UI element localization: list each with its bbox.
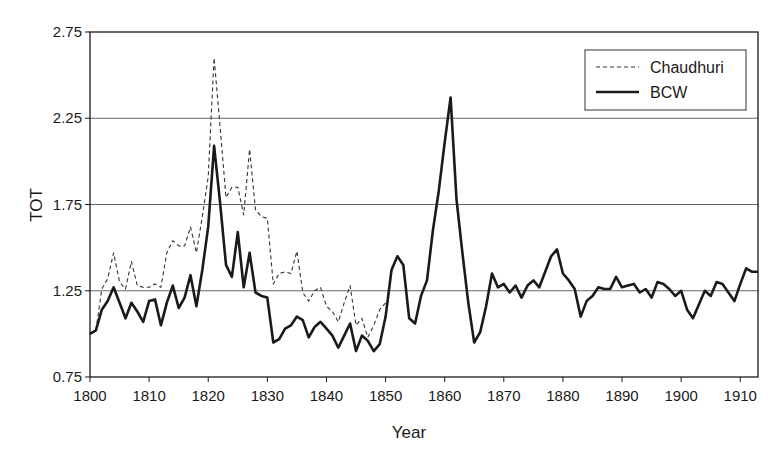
y-tick-label: 2.75 [53,23,82,40]
x-tick-label: 1830 [251,387,284,404]
legend: Chaudhuri BCW [585,50,746,110]
x-axis-ticks: 1800181018201830184018501860187018801890… [73,377,757,404]
x-tick-label: 1840 [310,387,343,404]
x-tick-label: 1860 [428,387,461,404]
y-tick-label: 0.75 [53,368,82,385]
x-tick-label: 1870 [487,387,520,404]
grid-lines [90,118,758,291]
series-bcw-line [90,98,758,352]
x-tick-label: 1800 [73,387,106,404]
x-tick-label: 1900 [664,387,697,404]
legend-label-chaudhuri: Chaudhuri [650,59,724,76]
x-tick-label: 1910 [724,387,757,404]
x-tick-label: 1820 [192,387,225,404]
y-tick-label: 1.25 [53,282,82,299]
y-axis-title: TOT [27,188,46,222]
y-tick-label: 1.75 [53,196,82,213]
y-tick-label: 2.25 [53,109,82,126]
series-chaudhuri-line [90,58,386,337]
x-tick-label: 1810 [132,387,165,404]
x-axis-title: Year [392,423,427,442]
x-tick-label: 1850 [369,387,402,404]
tot-line-chart: 0.751.251.752.252.75 1800181018201830184… [0,0,782,464]
x-tick-label: 1880 [546,387,579,404]
y-axis-ticks: 0.751.251.752.252.75 [53,23,90,385]
legend-label-bcw: BCW [650,84,688,101]
x-tick-label: 1890 [605,387,638,404]
